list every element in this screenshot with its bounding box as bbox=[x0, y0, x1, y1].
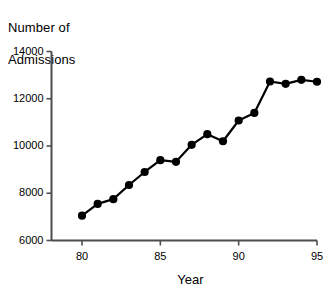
data-point-marker bbox=[313, 78, 321, 86]
data-point-marker bbox=[156, 156, 164, 164]
x-axis-tick-label: 85 bbox=[140, 250, 180, 262]
data-point-marker bbox=[235, 116, 243, 124]
y-axis-tick-label: 10000 bbox=[13, 139, 44, 151]
chart-figure: Number of Admissions Year 60008000100001… bbox=[0, 0, 333, 297]
data-point-marker bbox=[188, 141, 196, 149]
data-point-marker bbox=[125, 181, 133, 189]
data-point-marker bbox=[266, 77, 274, 85]
y-axis-tick-label: 6000 bbox=[19, 234, 43, 246]
y-axis-tick-label: 12000 bbox=[13, 92, 44, 104]
data-point-marker bbox=[219, 137, 227, 145]
data-line-admissions bbox=[82, 80, 317, 216]
data-point-marker bbox=[172, 158, 180, 166]
data-point-marker bbox=[109, 195, 117, 203]
data-point-marker bbox=[297, 76, 305, 84]
data-point-marker bbox=[94, 200, 102, 208]
x-axis-label: Year bbox=[0, 272, 333, 287]
data-point-marker bbox=[250, 109, 258, 117]
x-axis-tick-label: 95 bbox=[297, 250, 333, 262]
y-axis-tick-label: 14000 bbox=[13, 45, 44, 57]
x-axis-label-text: Year bbox=[177, 272, 203, 287]
data-point-marker bbox=[203, 130, 211, 138]
data-point-marker bbox=[78, 212, 86, 220]
data-point-marker bbox=[282, 80, 290, 88]
x-axis-tick-label: 90 bbox=[219, 250, 259, 262]
y-axis-tick-label: 8000 bbox=[19, 186, 43, 198]
x-axis-tick-label: 80 bbox=[62, 250, 102, 262]
data-point-marker bbox=[141, 168, 149, 176]
